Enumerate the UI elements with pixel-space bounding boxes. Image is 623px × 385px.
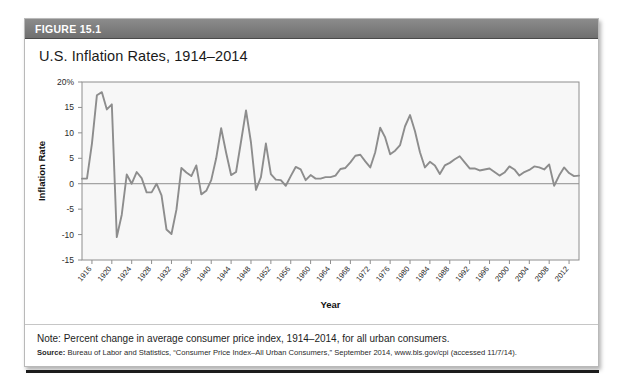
x-tick-label: 1948 [235,265,253,284]
figure-header-bar: FIGURE 15.1 [25,19,598,39]
x-tick-label: 1932 [155,265,173,284]
y-tick-label: -15 [62,255,75,265]
x-tick-label: 1964 [314,265,332,284]
y-tick-label: 0 [69,179,74,189]
source-text: Source: Bureau of Labor and Statistics, … [37,348,586,358]
x-tick-label: 1972 [354,265,372,284]
y-tick-label: 20% [57,77,74,87]
x-tick-label: 1980 [394,265,412,284]
x-tick-label: 1992 [453,265,471,284]
y-tick-label: 5 [69,153,74,163]
chart-area: 20%151050-5-10-15 1916192019241928193219… [25,68,600,326]
x-tick-label: 1952 [255,265,273,284]
x-tick-label: 2008 [533,265,551,284]
x-tick-label: 1988 [434,265,452,284]
x-tick-group: 1916192019241928193219361940194419481952… [76,260,571,283]
y-tick-label: 10 [65,128,75,138]
x-tick-label: 1920 [96,265,114,284]
y-tick-label: 15 [65,102,75,112]
x-tick-label: 1940 [195,265,213,284]
x-tick-label: 1956 [275,265,293,284]
source-label: Source: [37,348,65,357]
x-tick-label: 1936 [175,265,193,284]
x-tick-label: 2000 [493,265,511,284]
x-tick-label: 1960 [294,265,312,284]
x-tick-label: 1928 [135,265,153,284]
bottom-rule [26,370,599,373]
x-tick-label: 1924 [115,265,133,284]
x-tick-label: 1916 [76,265,94,284]
x-tick-label: 1996 [473,265,491,284]
x-tick-label: 1944 [215,265,233,284]
y-axis-title: Inflation Rate [36,141,47,201]
y-tick-label: -5 [66,204,74,214]
x-tick-label: 1968 [334,265,352,284]
plot-background [82,82,579,260]
source-body: Bureau of Labor and Statistics, “Consume… [65,348,516,357]
y-tick-label: -10 [62,230,75,240]
x-tick-label: 1984 [414,265,432,284]
figure-number-label: FIGURE 15.1 [35,23,101,35]
figure-notes: Note: Percent change in average consumer… [25,324,598,366]
x-axis-title: Year [320,299,340,310]
inflation-line-chart: 20%151050-5-10-15 1916192019241928193219… [25,68,600,326]
figure-title: U.S. Inflation Rates, 1914–2014 [25,39,598,68]
x-tick-label: 2004 [513,265,531,284]
figure-card: FIGURE 15.1 U.S. Inflation Rates, 1914–2… [24,18,599,367]
y-tick-group: 20%151050-5-10-15 [57,77,82,265]
x-tick-label: 1976 [374,265,392,284]
x-tick-label: 2012 [553,265,571,284]
note-text: Note: Percent change in average consumer… [37,332,586,346]
